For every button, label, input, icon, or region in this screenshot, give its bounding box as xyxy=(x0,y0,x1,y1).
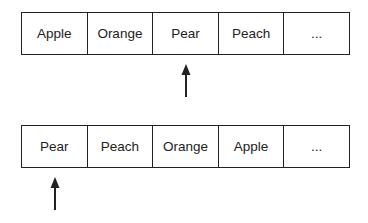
array-row-2: Pear Peach Orange Apple ... xyxy=(21,125,350,168)
array-cell-ellipsis: ... xyxy=(284,126,349,167)
up-arrow-icon xyxy=(180,64,192,98)
array-row-1: Apple Orange Pear Peach ... xyxy=(21,12,350,55)
array-cell: Apple xyxy=(22,13,88,54)
array-cell: Peach xyxy=(88,126,154,167)
array-cell: Peach xyxy=(219,13,285,54)
array-cell-ellipsis: ... xyxy=(284,13,349,54)
array-cell: Apple xyxy=(219,126,285,167)
array-cell: Pear xyxy=(153,13,219,54)
array-cell: Pear xyxy=(22,126,88,167)
array-cell: Orange xyxy=(153,126,219,167)
array-cell: Orange xyxy=(88,13,154,54)
up-arrow-icon xyxy=(49,177,61,211)
